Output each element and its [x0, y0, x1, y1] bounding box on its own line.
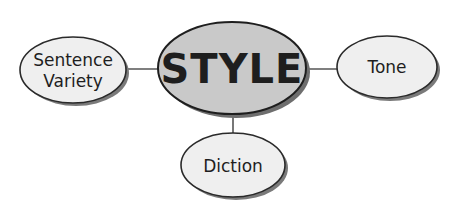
node-label: Diction	[203, 156, 263, 176]
node-label-line-1: Sentence	[33, 50, 113, 70]
concept-map-canvas: Sentence Variety Tone Diction STYLE	[0, 0, 456, 213]
node-style-center: STYLE	[158, 22, 310, 118]
concept-map: Sentence Variety Tone Diction STYLE	[0, 0, 456, 213]
center-label: STYLE	[161, 46, 304, 92]
node-label-line-2: Variety	[43, 71, 103, 91]
node-tone: Tone	[337, 36, 440, 101]
node-diction: Diction	[181, 133, 288, 200]
node-ellipse	[20, 37, 126, 103]
node-sentence-variety: Sentence Variety	[20, 37, 129, 106]
node-label: Tone	[366, 57, 406, 77]
